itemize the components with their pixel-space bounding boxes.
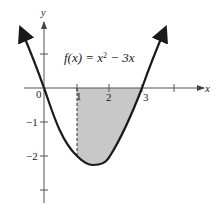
parabola-curve-left (21, 29, 44, 88)
y-axis-label: y (40, 7, 46, 18)
y-tick-label-neg2: −2 (26, 150, 38, 162)
origin-label: 0 (36, 88, 42, 100)
x-tick-label-1: 1 (76, 90, 82, 102)
x-axis-label: x (204, 82, 210, 94)
x-tick-label-2: 2 (106, 91, 112, 103)
function-label: f(x) = x2 − 3x (64, 50, 135, 65)
graph: y x 0 1 2 3 −1 −2 f(x) = x2 − 3x (0, 0, 218, 217)
y-tick-label-neg1: −1 (26, 116, 38, 128)
x-tick-label-3: 3 (143, 91, 149, 103)
